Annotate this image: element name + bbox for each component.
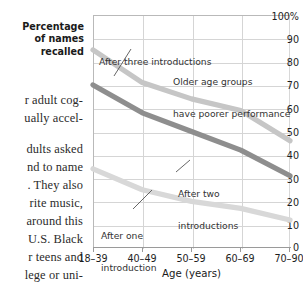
- annotation-line: After one: [101, 231, 156, 242]
- x-tick-label-70-90: 70–90: [264, 253, 303, 264]
- line-chart: Percentage of names recalled 100% 90 80 …: [0, 0, 303, 284]
- annotation-older-age-groups: Older age groups have poorer performance: [173, 56, 290, 141]
- annotation-line: introduction: [101, 263, 156, 274]
- y-axis-title-line-2: of names: [0, 33, 84, 45]
- x-tick-label-60-69: 60–69: [215, 253, 265, 264]
- y-axis-title-line-3: recalled: [0, 46, 84, 58]
- annotation-line: have poorer performance: [173, 109, 290, 120]
- annotation-after-two-introductions: After two introductions: [178, 168, 238, 253]
- y-tick-label-90: 90: [215, 34, 303, 45]
- y-tick-label-100: 100%: [215, 11, 303, 22]
- annotation-line: Older age groups: [173, 77, 290, 88]
- x-axis-tick: [93, 248, 94, 252]
- y-axis-title-line-1: Percentage: [0, 21, 84, 33]
- annotation-line: After two: [178, 189, 238, 200]
- x-tick-label-50-59: 50–59: [166, 253, 216, 264]
- annotation-after-one-introduction: After one introduction: [101, 210, 156, 284]
- annotation-line: introductions: [178, 221, 238, 232]
- y-tick-label-40: 40: [215, 150, 303, 161]
- y-axis-title: Percentage of names recalled: [0, 21, 84, 58]
